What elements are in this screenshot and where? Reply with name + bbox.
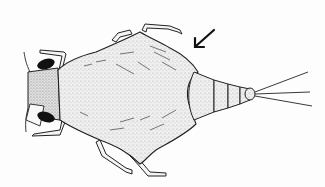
illustration: Insect nymph, dorsal view (line drawing) (0, 0, 325, 187)
head (26, 56, 60, 126)
arrow-indicator (195, 30, 214, 47)
abdomen (189, 72, 255, 120)
nymph-drawing (0, 0, 325, 187)
thorax-wingpads (58, 32, 198, 164)
caudal-filaments (255, 72, 312, 106)
